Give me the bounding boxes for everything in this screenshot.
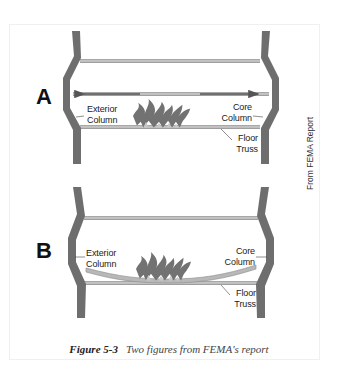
figure-caption: Figure 5-3Two figures from FEMA's report	[0, 343, 338, 355]
source-note: From FEMA Report	[305, 117, 315, 190]
leader-core	[253, 116, 263, 117]
label-core-column: Core Column	[216, 102, 252, 124]
upper-floor-beam	[84, 216, 258, 220]
panel-a-letter: A	[36, 86, 52, 108]
caption-number: Figure 5-3	[69, 343, 118, 355]
caption-text: Two figures from FEMA's report	[126, 343, 269, 355]
label-exterior-column: Exterior Column	[86, 248, 116, 270]
diagram-svg	[0, 0, 338, 377]
label-floor-truss: Floor Truss	[226, 133, 258, 155]
upper-floor-beam	[80, 59, 260, 63]
label-floor-truss: Floor Truss	[224, 288, 256, 310]
label-exterior-column: Exterior Column	[87, 104, 117, 126]
fire-icon	[136, 252, 191, 281]
leader-exterior	[76, 116, 84, 117]
core-column	[261, 31, 279, 164]
core-column	[256, 187, 274, 318]
fire-icon	[133, 99, 190, 128]
label-core-column: Core Column	[218, 246, 255, 268]
exterior-column	[63, 31, 81, 164]
panel-b-letter: B	[36, 240, 52, 262]
exterior-column	[68, 187, 86, 318]
